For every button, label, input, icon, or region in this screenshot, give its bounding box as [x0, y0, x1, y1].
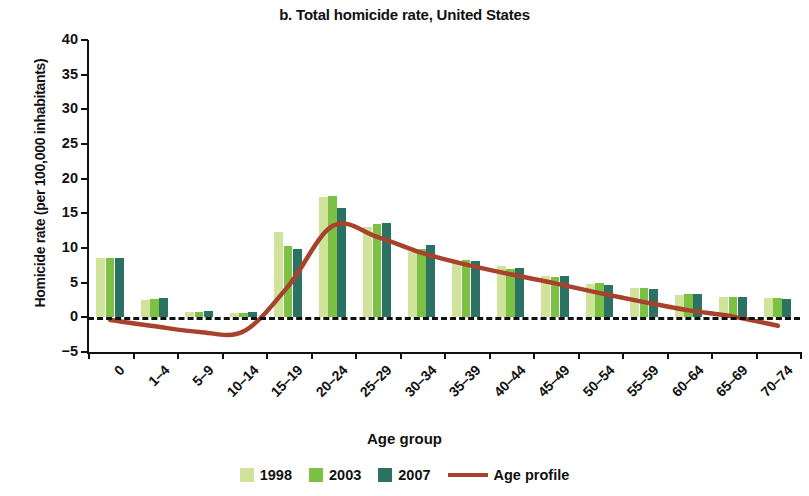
y-tick-label: 35 [36, 66, 78, 82]
x-tick [489, 352, 491, 359]
x-tick-label: 50–54 [579, 362, 617, 400]
x-tick [756, 352, 758, 359]
legend-line-icon-age-profile [448, 473, 488, 477]
x-axis-title: Age group [0, 430, 809, 447]
x-tick-label: 65–69 [713, 362, 751, 400]
x-tick [400, 352, 402, 359]
y-tick [81, 143, 88, 145]
x-tick-label: 30–34 [401, 362, 439, 400]
legend-item-1998[interactable]: 1998 [240, 468, 292, 483]
y-tick-label: 40 [36, 31, 78, 47]
y-tick-label: 30 [36, 100, 78, 116]
chart-figure: b. Total homicide rate, United States Ho… [0, 0, 809, 496]
age-profile-line [88, 40, 800, 352]
x-tick-label: 35–39 [446, 362, 484, 400]
legend-label-2003: 2003 [329, 468, 361, 483]
legend-label-2007: 2007 [398, 468, 430, 483]
legend-item-2003[interactable]: 2003 [309, 468, 361, 483]
x-tick [133, 352, 135, 359]
x-tick-label: 55–59 [624, 362, 662, 400]
x-tick-label: 25–29 [357, 362, 395, 400]
legend-item-2007[interactable]: 2007 [378, 468, 430, 483]
x-tick-label: 45–49 [535, 362, 573, 400]
x-tick [578, 352, 580, 359]
x-tick-label: 60–64 [668, 362, 706, 400]
x-tick [311, 352, 313, 359]
y-tick-label: 15 [36, 204, 78, 220]
x-tick [711, 352, 713, 359]
x-tick-label: 0 [111, 362, 128, 379]
y-tick [81, 212, 88, 214]
plot-area [88, 40, 800, 352]
chart-title: b. Total homicide rate, United States [0, 6, 809, 23]
legend-label-1998: 1998 [260, 468, 292, 483]
y-tick [81, 247, 88, 249]
y-tick [81, 178, 88, 180]
x-tick [266, 352, 268, 359]
y-tick [81, 39, 88, 41]
x-tick [800, 352, 802, 359]
y-tick [81, 316, 88, 318]
y-tick-label: 5 [36, 274, 78, 290]
legend-swatch-icon-2003 [309, 468, 323, 482]
x-tick-label: 40–44 [490, 362, 528, 400]
x-tick [222, 352, 224, 359]
y-tick-label: 0 [36, 308, 78, 324]
x-tick [355, 352, 357, 359]
x-tick-label: 70–74 [757, 362, 795, 400]
legend-label-age-profile: Age profile [494, 468, 570, 483]
chart-legend: 1998 2003 2007 Age profile [0, 468, 809, 483]
y-tick [81, 108, 88, 110]
x-tick [533, 352, 535, 359]
y-tick [81, 282, 88, 284]
y-tick-label: 10 [36, 239, 78, 255]
x-tick [444, 352, 446, 359]
legend-item-age-profile[interactable]: Age profile [448, 468, 570, 483]
y-tick [81, 74, 88, 76]
x-tick-label: 1–4 [145, 362, 172, 389]
x-tick-label: 10–14 [223, 362, 261, 400]
x-tick-label: 20–24 [312, 362, 350, 400]
x-tick-label: 5–9 [189, 362, 216, 389]
y-tick-label: 25 [36, 135, 78, 151]
x-tick [622, 352, 624, 359]
y-tick-label: −5 [36, 343, 78, 359]
y-tick-label: 20 [36, 170, 78, 186]
zero-baseline [88, 317, 800, 320]
legend-swatch-icon-2007 [378, 468, 392, 482]
legend-swatch-icon-1998 [240, 468, 254, 482]
x-tick-label: 15–19 [268, 362, 306, 400]
y-tick [81, 351, 88, 353]
x-tick [88, 352, 90, 359]
x-tick [667, 352, 669, 359]
x-tick [177, 352, 179, 359]
